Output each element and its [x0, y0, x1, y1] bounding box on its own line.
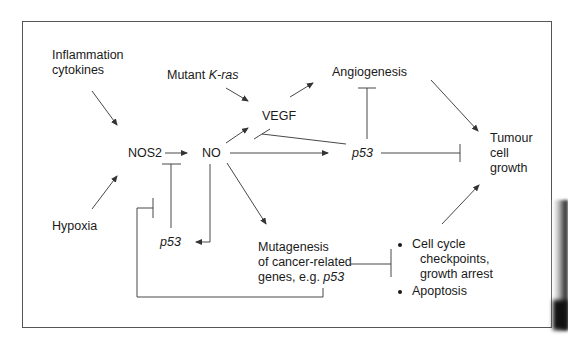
node-inflammation-cytokines: Inflammation cytokines	[52, 48, 124, 78]
node-nos2: NOS2	[128, 146, 162, 161]
bullet-icon	[398, 243, 402, 247]
edge-inflammation-to-nos2	[92, 91, 117, 125]
outcome-item-cell-cycle: Cell cycle checkpoints, growth arrest	[398, 237, 518, 282]
node-no: NO	[202, 146, 221, 161]
node-p53-center: p53	[352, 146, 373, 161]
outcome-item-apoptosis: Apoptosis	[398, 284, 518, 299]
edge-no-to-vegf	[226, 128, 248, 143]
bullet-icon	[398, 290, 402, 294]
edge-no-to-mutagenesis	[227, 163, 266, 224]
edge-vegf-to-angiogenesis	[290, 83, 313, 97]
edge-angiogenesis-to-tumour	[431, 80, 478, 131]
node-outcomes-list: Cell cycle checkpoints, growth arrest Ap…	[398, 237, 518, 299]
node-mutagenesis: Mutagenesis of cancer-related genes, e.g…	[258, 240, 352, 285]
edge-p53-inhibits-vegf	[262, 134, 346, 144]
edge-hypoxia-to-nos2	[92, 176, 117, 209]
node-tumour-cell-growth: Tumour cell growth	[490, 131, 533, 176]
node-p53-lower: p53	[160, 235, 181, 250]
node-angiogenesis: Angiogenesis	[332, 65, 407, 80]
edge-kras-to-vegf	[226, 88, 248, 101]
node-mutant-kras: Mutant K-ras	[167, 68, 239, 83]
node-hypoxia: Hypoxia	[52, 219, 97, 234]
node-vegf: VEGF	[262, 109, 296, 124]
edge-outcomes-to-tumour	[442, 185, 479, 224]
edge-no-to-p53-lower	[196, 164, 210, 242]
